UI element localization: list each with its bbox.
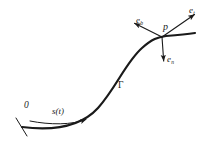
arc-length-label: s(t) [52, 107, 64, 116]
tangent-vector-label: et [189, 6, 195, 15]
curve-gamma [22, 33, 195, 128]
binormal-vector-label: eb [136, 16, 143, 25]
binormal-vector [135, 23, 163, 37]
origin-label: 0 [24, 101, 29, 111]
frenet-frame-diagram: et eb en p Γ 0 s(t) [0, 0, 216, 142]
normal-vector [162, 37, 164, 61]
normal-vector-label: en [167, 55, 174, 64]
point-p-label: p [163, 22, 168, 32]
curve-gamma-label: Γ [118, 81, 124, 91]
diagram-canvas [0, 0, 216, 142]
